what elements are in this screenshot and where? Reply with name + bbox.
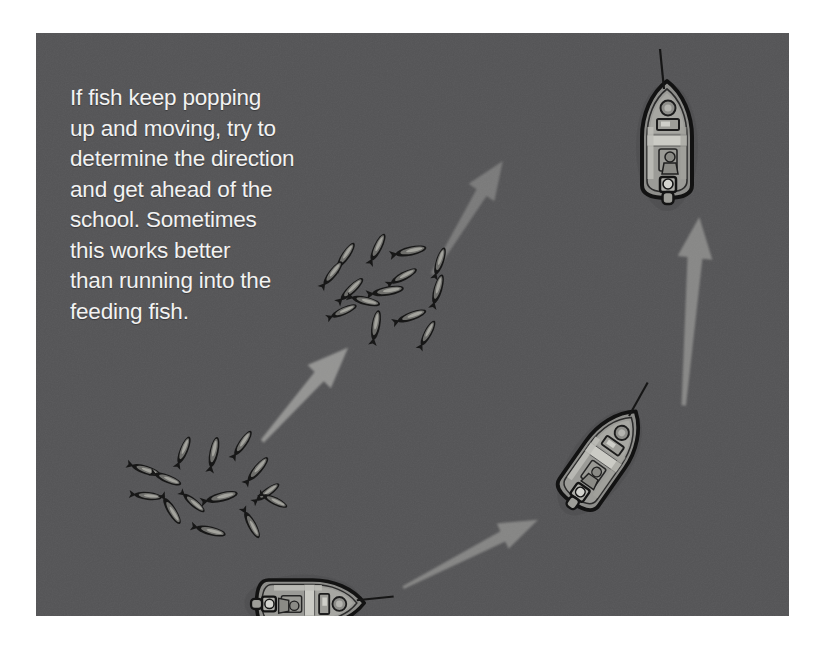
illustration-panel: If fish keep popping up and moving, try … <box>36 33 789 616</box>
boat-top <box>636 49 698 211</box>
boat-bottom <box>245 574 394 616</box>
illustration-stage: If fish keep popping up and moving, try … <box>0 0 825 645</box>
caption-text: If fish keep popping up and moving, try … <box>70 83 360 327</box>
boat-middle <box>541 370 678 530</box>
